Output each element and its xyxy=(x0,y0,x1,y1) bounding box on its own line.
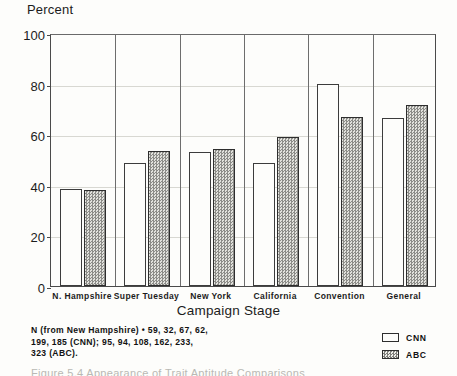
legend-label: ABC xyxy=(406,350,427,360)
bar-cnn-super-tuesday xyxy=(124,163,146,286)
bar-abc-california xyxy=(277,137,299,286)
y-axis-tick-label: 100 xyxy=(23,28,45,43)
bar-cnn-california xyxy=(253,163,275,286)
bar-cnn-convention xyxy=(317,84,339,286)
y-axis-tick-label: 0 xyxy=(38,281,45,296)
y-axis-tick-mark xyxy=(47,288,51,289)
y-axis-tick-label: 80 xyxy=(31,78,45,93)
footnote-line-3: 323 (ABC). xyxy=(31,348,261,360)
bar-abc-convention xyxy=(341,117,363,287)
bar-cnn-general xyxy=(382,118,404,286)
legend-item: CNN xyxy=(382,331,427,344)
bar-cnn-n-hampshire xyxy=(60,189,82,286)
figure-caption-partial: Figure 5.4 Appearance of Trait Aptitude … xyxy=(31,367,451,376)
y-axis-tick-label: 60 xyxy=(31,129,45,144)
y-axis-tick-label: 20 xyxy=(31,230,45,245)
bar-group xyxy=(51,35,115,286)
bar-group xyxy=(244,35,308,286)
bar-group xyxy=(373,35,437,286)
x-axis-tick-label: New York xyxy=(190,291,231,301)
bar-cnn-new-york xyxy=(189,152,211,286)
footnote-line-1: N (from New Hampshire) • 59, 32, 67, 62, xyxy=(31,325,261,337)
x-axis-tick-label: General xyxy=(387,291,421,301)
x-axis-title: Campaign Stage xyxy=(0,303,457,318)
bar-group xyxy=(308,35,372,286)
x-axis-tick-label: Convention xyxy=(314,291,365,301)
x-axis-tick-label: Super Tuesday xyxy=(114,291,180,301)
plot-area: 020406080100 xyxy=(50,34,436,287)
bar-abc-n-hampshire xyxy=(84,190,106,286)
legend-swatch-abc xyxy=(382,350,399,359)
legend-swatch-cnn xyxy=(382,333,399,342)
bar-group xyxy=(180,35,244,286)
legend-item: ABC xyxy=(382,348,427,361)
y-axis-title: Percent xyxy=(27,2,73,17)
bar-abc-new-york xyxy=(213,149,235,286)
bar-group xyxy=(115,35,179,286)
footnote: N (from New Hampshire) • 59, 32, 67, 62,… xyxy=(31,325,261,360)
y-axis-tick-label: 40 xyxy=(31,179,45,194)
x-axis-tick-label: N. Hampshire xyxy=(52,291,112,301)
x-axis-tick-label: California xyxy=(254,291,297,301)
legend-label: CNN xyxy=(406,333,427,343)
bar-abc-super-tuesday xyxy=(148,151,170,286)
bar-abc-general xyxy=(406,105,428,286)
chart-legend: CNNABC xyxy=(382,331,427,365)
footnote-line-2: 199, 185 (CNN); 95, 94, 108, 162, 233, xyxy=(31,337,261,349)
